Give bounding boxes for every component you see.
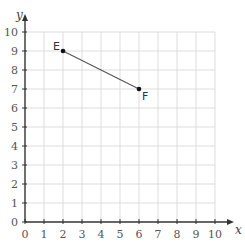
x-axis-label: x (235, 223, 242, 237)
x-tick-label: 1 (41, 228, 48, 241)
y-tick-label: 0 (11, 216, 18, 229)
x-tick-label: 10 (208, 228, 222, 241)
x-tick-label: 8 (174, 228, 181, 241)
x-tick-label: 6 (136, 228, 143, 241)
y-tick-label: 1 (11, 197, 18, 210)
y-axis-arrow-icon (22, 14, 28, 21)
y-tick-label: 6 (11, 102, 18, 115)
x-tick-label: 7 (155, 228, 162, 241)
x-axis-arrow-icon (227, 219, 234, 225)
y-tick-label: 4 (11, 140, 18, 153)
y-tick-label: 8 (11, 64, 18, 77)
x-tick-label: 0 (22, 228, 29, 241)
x-tick-label: 5 (117, 228, 124, 241)
x-tick-label: 2 (60, 228, 67, 241)
y-tick-label: 2 (11, 178, 18, 191)
coordinate-grid-chart: xy 012345678910012345678910 EF (0, 0, 245, 243)
point-label-E: E (53, 40, 60, 53)
x-tick-label: 9 (193, 228, 200, 241)
x-tick-label: 4 (98, 228, 105, 241)
x-tick-label: 3 (79, 228, 86, 241)
y-axis-label: y (15, 8, 23, 22)
point-F (137, 87, 142, 92)
point-label-F: F (142, 90, 148, 103)
point-E (61, 49, 66, 54)
y-tick-label: 9 (11, 45, 18, 58)
y-tick-label: 10 (4, 26, 18, 39)
y-tick-label: 3 (11, 159, 18, 172)
y-tick-label: 7 (11, 83, 18, 96)
y-tick-label: 5 (11, 121, 18, 134)
